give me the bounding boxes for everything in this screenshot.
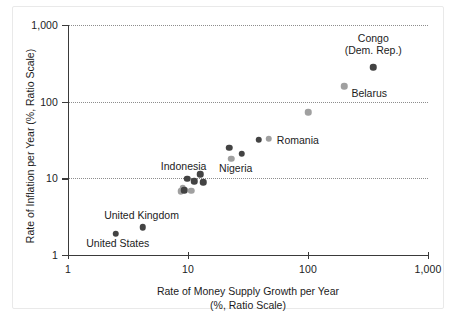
x-axis-title: Rate of Money Supply Growth per Year (%,… — [68, 285, 428, 312]
annotation-romania: Romania — [277, 134, 319, 147]
data-point-12 — [238, 150, 245, 157]
y-axis-title: Rate of Inflation per Year (%, Ratio Sca… — [24, 16, 36, 276]
x-axis-title-sub: (%, Ratio Scale) — [68, 299, 428, 313]
x-tick-label-1000: 1,000 — [415, 263, 442, 275]
gridline-y-10 — [68, 178, 428, 179]
annotation-line: United States — [86, 237, 149, 250]
data-point-7 — [191, 178, 198, 185]
data-point-15 — [305, 109, 312, 116]
y-axis-line — [68, 25, 69, 256]
x-axis-title-main: Rate of Money Supply Growth per Year — [68, 285, 428, 299]
annotation-united-kingdom: United Kingdom — [104, 209, 179, 222]
gridline-y-100 — [68, 102, 428, 103]
data-point-13 — [256, 136, 263, 143]
annotation-line: Belarus — [351, 87, 387, 100]
x-axis-line — [68, 255, 429, 256]
x-tick-label-1: 1 — [65, 263, 71, 275]
data-point-4 — [181, 187, 188, 194]
annotation-united-states: United States — [86, 237, 149, 250]
x-tick-1 — [68, 252, 69, 259]
data-point-10 — [226, 145, 233, 152]
x-tick-100 — [308, 252, 309, 259]
annotation-line: Romania — [277, 134, 319, 147]
data-point-united-kingdom — [140, 224, 147, 231]
data-point-united-states — [113, 230, 120, 237]
data-point-11 — [228, 156, 235, 163]
data-point-6 — [188, 187, 195, 194]
annotation-line: Congo — [345, 32, 402, 45]
x-tick-label-10: 10 — [182, 263, 194, 275]
y-tick-10 — [62, 178, 69, 179]
data-point-belarus — [341, 83, 348, 90]
annotation-belarus: Belarus — [351, 87, 387, 100]
x-tick-10 — [188, 252, 189, 259]
data-point-romania — [265, 135, 272, 142]
x-tick-label-100: 100 — [299, 263, 317, 275]
data-point-congo-dem-rep — [370, 64, 377, 71]
annotation-indonesia: Indonesia — [161, 160, 207, 173]
annotation-line: Indonesia — [161, 160, 207, 173]
gridline-y-1000 — [68, 25, 428, 26]
annotation-line: (Dem. Rep.) — [345, 44, 402, 57]
data-point-9 — [200, 179, 207, 186]
annotation-line: United Kingdom — [104, 209, 179, 222]
y-tick-100 — [62, 102, 69, 103]
annotation-line: Nigeria — [219, 162, 252, 175]
annotation-congo: Congo(Dem. Rep.) — [345, 32, 402, 57]
annotation-nigeria: Nigeria — [219, 162, 252, 175]
x-tick-1000 — [428, 252, 429, 259]
figure-container: 1101001,0001101001,000 Congo(Dem. Rep.)B… — [0, 0, 458, 327]
y-tick-1000 — [62, 25, 69, 26]
data-point-5 — [184, 175, 191, 182]
